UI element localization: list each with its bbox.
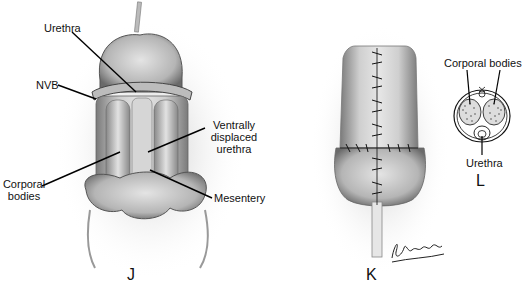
label-nvb: NVB [36, 79, 59, 91]
panel-letter-k: K [366, 266, 377, 284]
label-mesentery: Mesentery [214, 192, 265, 204]
panel-letter-j: J [127, 266, 135, 284]
label-urethra-l: Urethra [466, 157, 503, 169]
label-ventrally-displaced-urethra: Ventrally displaced urethra [206, 119, 262, 155]
surgical-illustration-figure: Urethra NVB Ventrally displaced urethra … [0, 0, 524, 287]
label-corporal-line2: bodies [2, 190, 46, 202]
panel-letter-l: L [476, 172, 485, 190]
label-ventral-line3: urethra [206, 143, 262, 155]
label-corporal-line1: Corporal [2, 178, 46, 190]
label-corporal-bodies-j: Corporal bodies [2, 178, 46, 202]
label-ventral-line1: Ventrally [206, 119, 262, 131]
label-corporal-bodies-l: Corporal bodies [444, 57, 522, 69]
panel-l-drawing [454, 87, 510, 142]
illustration-artwork [0, 0, 524, 287]
label-ventral-line2: displaced [206, 131, 262, 143]
label-urethra-j: Urethra [44, 22, 81, 34]
